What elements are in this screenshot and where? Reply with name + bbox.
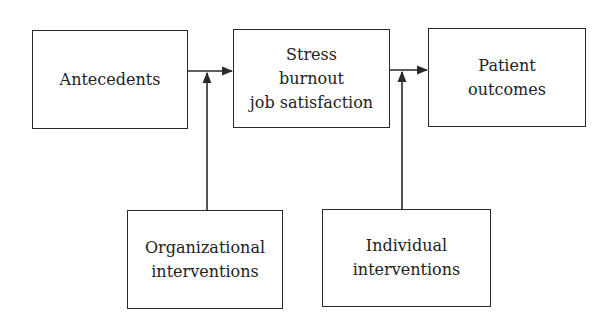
node-organizational-label-line2: interventions (151, 260, 258, 284)
node-antecedents: Antecedents (32, 30, 188, 129)
node-individual-label-line1: Individual (366, 234, 447, 258)
node-stress-label-line3: job satisfaction (250, 91, 373, 115)
node-organizational-label-line1: Organizational (145, 236, 265, 260)
node-stress-burnout-job-satisfaction: Stress burnout job satisfaction (233, 29, 390, 128)
node-individual-interventions: Individual interventions (322, 209, 491, 307)
node-organizational-interventions: Organizational interventions (127, 210, 283, 309)
node-stress-label-line2: burnout (279, 67, 344, 91)
node-patient-label-line1: Patient (478, 54, 535, 78)
node-individual-label-line2: interventions (353, 258, 460, 282)
node-patient-outcomes: Patient outcomes (428, 28, 586, 127)
node-antecedents-label: Antecedents (60, 68, 161, 92)
node-patient-label-line2: outcomes (468, 78, 546, 102)
node-stress-label-line1: Stress (286, 43, 337, 67)
